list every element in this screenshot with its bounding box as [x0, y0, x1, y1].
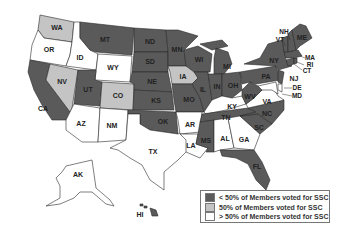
legend-item-less-than-50: < 50% of Members voted for SSC [205, 193, 325, 203]
label-CO: CO [113, 92, 124, 99]
legend-label: > 50% of Members voted for SSC [219, 213, 329, 220]
legend-item-equal-50: 50% of Members voted for SSC [205, 203, 325, 213]
legend-label: < 50% of Members voted for SSC [219, 194, 329, 201]
label-WY: WY [107, 64, 119, 71]
state-FL [220, 150, 270, 190]
label-IA: IA [180, 73, 187, 80]
label-AR: AR [185, 121, 195, 128]
label-OR: OR [44, 46, 55, 53]
label-OK: OK [158, 118, 169, 125]
label-ID: ID [77, 54, 84, 61]
label-MD: MD [292, 92, 302, 99]
label-IL: IL [200, 86, 207, 93]
label-VA: VA [262, 98, 271, 105]
label-LA: LA [186, 142, 195, 149]
label-MI: MI [223, 63, 231, 70]
label-AL: AL [220, 135, 230, 142]
label-OH: OH [228, 82, 239, 89]
label-WV: WV [244, 93, 256, 100]
label-AZ: AZ [76, 120, 86, 127]
state-NJ [278, 70, 284, 84]
label-AK: AK [73, 171, 83, 178]
legend-label: 50% of Members voted for SSC [219, 204, 322, 211]
label-ND: ND [145, 38, 155, 45]
label-NC: NC [262, 110, 272, 117]
label-NY: NY [269, 57, 279, 64]
legend-item-greater-than-50: > 50% of Members voted for SSC [205, 212, 325, 222]
map-legend: < 50% of Members voted for SSC 50% of Me… [200, 190, 330, 223]
label-MN: MN [172, 46, 183, 53]
label-NE: NE [147, 78, 157, 85]
label-MO: MO [183, 96, 195, 103]
label-HI: HI [137, 211, 144, 218]
label-TN: TN [221, 114, 230, 121]
label-SC: SC [254, 124, 264, 131]
label-TX: TX [149, 148, 158, 155]
state-DE [278, 84, 282, 92]
legend-swatch-white [205, 212, 215, 221]
label-PA: PA [261, 73, 270, 80]
label-WI: WI [195, 56, 204, 63]
label-NV: NV [57, 78, 67, 85]
label-MS: MS [201, 137, 212, 144]
label-KS: KS [151, 97, 161, 104]
label-WA: WA [51, 24, 62, 31]
legend-swatch-light [205, 203, 215, 212]
label-SD: SD [145, 58, 155, 65]
label-KY: KY [227, 103, 237, 110]
legend-swatch-dark [205, 193, 215, 202]
label-IN: IN [214, 83, 221, 90]
state-PA [240, 66, 280, 84]
label-FL: FL [253, 163, 262, 170]
label-VT: VT [276, 36, 284, 43]
label-NJ: NJ [290, 75, 299, 82]
label-CT: CT [303, 67, 312, 74]
label-ME: ME [297, 34, 308, 41]
label-UT: UT [83, 86, 93, 93]
state-RI [294, 58, 297, 64]
label-MT: MT [100, 36, 111, 43]
state-AK [46, 160, 114, 206]
label-DE: DE [292, 84, 302, 91]
label-MA: MA [305, 54, 315, 61]
label-CA: CA [38, 105, 48, 112]
label-NH: NH [279, 28, 289, 35]
label-RI: RI [307, 61, 314, 68]
label-NM: NM [107, 122, 118, 129]
label-GA: GA [239, 136, 250, 143]
